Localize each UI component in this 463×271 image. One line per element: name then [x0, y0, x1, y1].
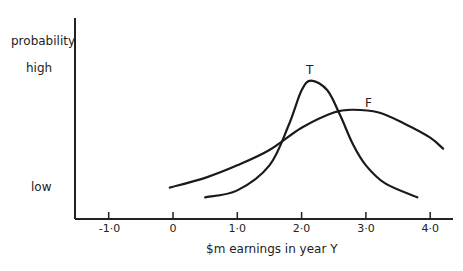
- y-axis-label: probability: [11, 34, 75, 48]
- x-tick-label: 1·0: [227, 222, 247, 235]
- x-axis-label: $m earnings in year Y: [206, 242, 338, 256]
- curve-label-t: T: [306, 63, 313, 77]
- x-tick-label: -1·0: [99, 222, 119, 235]
- curve-t: [205, 81, 417, 198]
- x-tick-label: 4·0: [420, 222, 440, 235]
- curve-label-f: F: [365, 96, 372, 110]
- x-tick-label: 0: [163, 222, 183, 235]
- x-tick-label: 2·0: [292, 222, 312, 235]
- x-tick-label: 3·0: [356, 222, 376, 235]
- curve-f: [170, 110, 443, 188]
- y-high-label: high: [26, 61, 52, 75]
- y-low-label: low: [31, 180, 52, 194]
- x-ticks: [109, 212, 431, 219]
- curves: [170, 81, 443, 198]
